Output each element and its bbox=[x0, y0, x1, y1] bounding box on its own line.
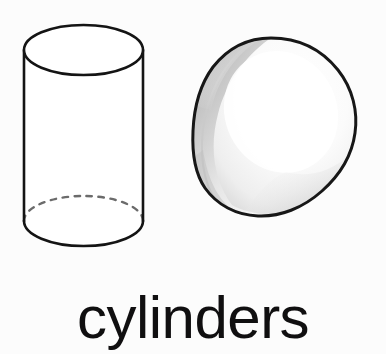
cylinder-top-ellipse bbox=[24, 25, 143, 75]
cylinder-body-fill bbox=[24, 50, 143, 246]
upright-cylinder bbox=[24, 25, 143, 246]
figure-caption: cylinders bbox=[0, 287, 386, 349]
tilted-cylinder bbox=[186, 32, 359, 222]
illustration-page: cylinders bbox=[0, 0, 386, 354]
